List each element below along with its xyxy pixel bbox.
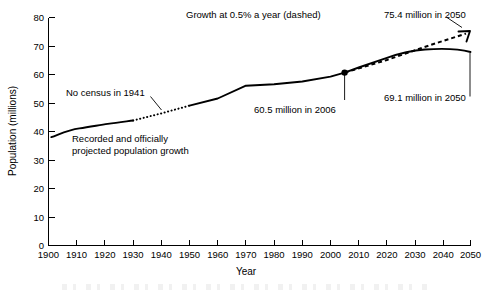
series-no-census-interpolation [133,106,189,121]
x-tick-label-2000: 2000 [320,249,341,260]
x-axis-ticks [77,240,471,246]
x-axis-tick-labels: 1900 1910 1920 1930 1940 1950 1960 1970 … [38,249,481,260]
y-axis-ticks [49,18,55,218]
x-tick-label-2040: 2040 [433,249,454,260]
cropped-caption-remnant [62,284,432,290]
y-axis-tick-labels: 80 70 60 50 40 30 20 10 0 [33,12,44,251]
x-tick-label-2030: 2030 [405,249,426,260]
x-tick-label-1900: 1900 [38,249,59,260]
leader-line-no-census [151,97,162,111]
annotation-2050-solid: 69.1 million in 2050 [384,92,466,103]
x-tick-label-1970: 1970 [235,249,256,260]
y-tick-label-50: 50 [33,98,44,109]
annotation-no-census: No census in 1941 [66,87,145,98]
x-tick-label-1980: 1980 [264,249,285,260]
y-axis-title: Population (millions) [7,86,18,176]
y-tick-label-70: 70 [33,41,44,52]
annotation-growth-rate: Growth at 0.5% a year (dashed) [186,9,321,20]
population-growth-chart: 80 70 60 50 40 30 20 10 0 [0,0,492,293]
annotation-recorded-line2: projected population growth [72,145,189,156]
annotation-point-2006: 60.5 million in 2006 [254,104,336,115]
y-tick-label-30: 30 [33,155,44,166]
x-tick-label-1960: 1960 [207,249,228,260]
x-tick-label-2020: 2020 [376,249,397,260]
x-tick-label-1950: 1950 [179,249,200,260]
x-tick-label-2050: 2050 [460,249,481,260]
annotation-recorded-line1: Recorded and officially [72,133,168,144]
y-tick-label-60: 60 [33,69,44,80]
x-tick-label-1990: 1990 [292,249,313,260]
x-tick-label-1910: 1910 [66,249,87,260]
y-tick-label-10: 10 [33,212,44,223]
x-tick-label-2010: 2010 [348,249,369,260]
x-axis-title: Year [236,266,257,277]
chart-canvas: 80 70 60 50 40 30 20 10 0 [0,0,492,293]
y-tick-label-20: 20 [33,183,44,194]
y-tick-label-80: 80 [33,12,44,23]
y-tick-label-40: 40 [33,126,44,137]
x-tick-label-1940: 1940 [151,249,172,260]
annotation-2050-dashed: 75.4 million in 2050 [384,9,466,20]
x-tick-label-1930: 1930 [123,249,144,260]
x-tick-label-1920: 1920 [94,249,115,260]
